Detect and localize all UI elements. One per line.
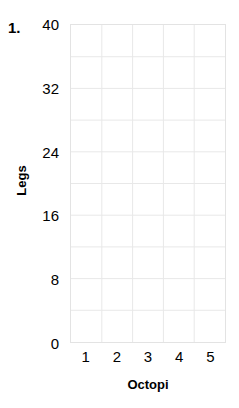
- y-axis-tick-labels: 4032241680: [0, 24, 64, 343]
- y-tick-label: 32: [42, 80, 59, 95]
- grid-lines: [71, 25, 225, 342]
- x-tick-label: 5: [195, 349, 226, 369]
- x-tick-label: 1: [70, 349, 101, 369]
- x-axis-title: Octopi: [70, 378, 226, 391]
- y-tick-label: 8: [51, 272, 59, 287]
- x-axis-tick-labels: 12345: [70, 349, 226, 369]
- x-tick-label: 3: [132, 349, 163, 369]
- y-tick-label: 40: [42, 17, 59, 32]
- y-tick-label: 24: [42, 144, 59, 159]
- worksheet-problem: 1. Legs 4032241680 12345 Octopi: [0, 0, 239, 408]
- y-tick-label: 16: [42, 208, 59, 223]
- x-tick-label: 2: [101, 349, 132, 369]
- x-tick-label: 4: [164, 349, 195, 369]
- plot-area[interactable]: [70, 24, 226, 343]
- y-tick-label: 0: [51, 336, 59, 351]
